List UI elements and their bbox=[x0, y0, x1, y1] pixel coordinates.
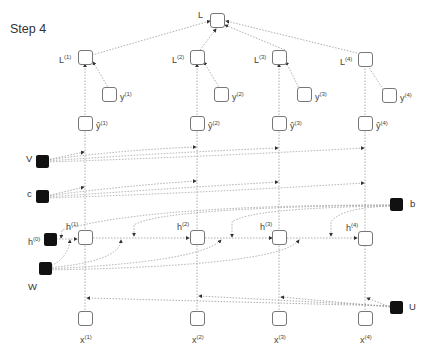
loss-label-3: L(3) bbox=[254, 54, 266, 65]
loss-label-1: L(1) bbox=[59, 54, 71, 65]
hidden-label-4: h(4) bbox=[346, 222, 358, 233]
total-loss-label: L bbox=[198, 11, 203, 20]
input-label-3: x(3) bbox=[274, 334, 286, 345]
input-label-4: x(4) bbox=[360, 334, 372, 345]
param-W bbox=[39, 262, 52, 275]
param-h0 bbox=[44, 233, 57, 246]
h0-label: h(0) bbox=[28, 236, 40, 247]
param-b-label: b bbox=[410, 199, 415, 209]
target-label-1: y(1) bbox=[120, 91, 132, 102]
loss-node-3 bbox=[272, 50, 287, 65]
loss-label-4: L(4) bbox=[340, 56, 352, 67]
param-c-label: c bbox=[27, 189, 32, 199]
loss-node-1 bbox=[78, 50, 93, 65]
hidden-node-2 bbox=[190, 230, 205, 245]
param-U bbox=[390, 301, 403, 314]
input-node-2 bbox=[190, 311, 205, 326]
input-node-3 bbox=[272, 311, 287, 326]
hidden-node-1 bbox=[78, 230, 93, 245]
target-label-3: y(3) bbox=[315, 91, 327, 102]
hidden-node-4 bbox=[358, 231, 373, 246]
param-c bbox=[36, 190, 49, 203]
output-node-3 bbox=[272, 116, 287, 131]
total-loss-node bbox=[210, 13, 225, 28]
output-label-1: ŷ(1) bbox=[96, 120, 108, 131]
target-node-1 bbox=[102, 87, 117, 102]
output-label-3: ŷ(3) bbox=[290, 120, 302, 131]
hidden-label-1: h(1) bbox=[66, 221, 78, 232]
input-node-4 bbox=[358, 311, 373, 326]
output-node-4 bbox=[358, 116, 373, 131]
output-node-1 bbox=[78, 116, 93, 131]
hidden-label-3: h(3) bbox=[260, 221, 272, 232]
loss-node-4 bbox=[358, 52, 373, 67]
output-node-2 bbox=[190, 116, 205, 131]
loss-node-2 bbox=[190, 50, 205, 65]
output-label-2: ŷ(2) bbox=[208, 120, 220, 131]
loss-label-2: L(2) bbox=[172, 54, 184, 65]
output-label-4: ŷ(4) bbox=[376, 120, 388, 131]
param-U-label: U bbox=[409, 302, 416, 312]
input-label-1: x(1) bbox=[80, 334, 92, 345]
target-node-2 bbox=[214, 87, 229, 102]
target-node-3 bbox=[297, 87, 312, 102]
hidden-label-2: h(2) bbox=[177, 221, 189, 232]
input-label-2: x(2) bbox=[192, 334, 204, 345]
target-node-4 bbox=[382, 88, 397, 103]
target-label-4: y(4) bbox=[400, 92, 412, 103]
param-V bbox=[36, 155, 49, 168]
target-label-2: y(2) bbox=[232, 91, 244, 102]
param-b bbox=[390, 198, 403, 211]
hidden-node-3 bbox=[272, 230, 287, 245]
param-V-label: V bbox=[26, 154, 32, 164]
param-W-label: W bbox=[28, 282, 37, 292]
input-node-1 bbox=[78, 311, 93, 326]
